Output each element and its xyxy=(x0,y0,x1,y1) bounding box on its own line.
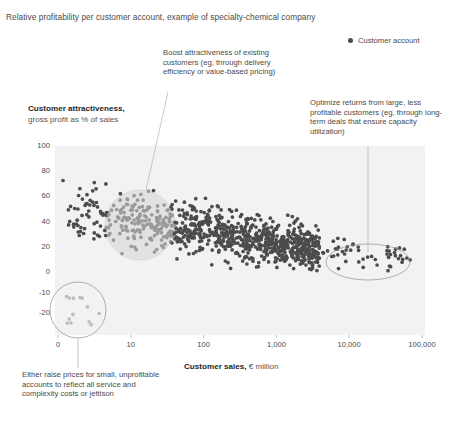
scatter-point xyxy=(244,247,248,251)
scatter-point xyxy=(170,207,174,211)
y-tick-0: 0 xyxy=(24,267,50,276)
scatter-point xyxy=(126,236,130,240)
scatter-point xyxy=(194,227,198,231)
scatter-point xyxy=(156,204,160,208)
scatter-point xyxy=(259,236,263,240)
scatter-point xyxy=(194,197,198,201)
scatter-point xyxy=(217,241,221,245)
scatter-point xyxy=(321,251,325,255)
scatter-point xyxy=(141,223,145,227)
scatter-point xyxy=(226,243,230,247)
scatter-point xyxy=(229,267,233,271)
scatter-point xyxy=(107,213,111,217)
x-axis-title: Customer sales, € million xyxy=(184,362,278,371)
scatter-point xyxy=(288,263,292,267)
scatter-point xyxy=(181,208,185,212)
scatter-point xyxy=(275,257,279,261)
scatter-point xyxy=(174,226,178,230)
y-tick-80: 80 xyxy=(24,166,50,175)
scatter-point xyxy=(193,217,197,221)
scatter-point xyxy=(284,240,288,244)
scatter-point xyxy=(174,230,178,234)
scatter-point xyxy=(280,235,284,239)
scatter-point xyxy=(187,252,191,256)
scatter-point xyxy=(191,208,195,212)
scatter-point xyxy=(370,255,374,259)
scatter-point xyxy=(316,228,320,232)
scatter-point xyxy=(249,244,253,248)
scatter-point xyxy=(361,265,365,269)
scatter-point xyxy=(296,217,300,221)
scatter-point xyxy=(155,218,159,222)
scatter-point xyxy=(152,189,156,193)
scatter-point xyxy=(298,239,302,243)
y-tick-100: 100 xyxy=(24,141,50,150)
x-tick-10000: 10,000 xyxy=(327,340,371,349)
scatter-point xyxy=(246,243,250,247)
scatter-point xyxy=(230,210,234,214)
scatter-point xyxy=(175,236,179,240)
y-tick-neg10: -10 xyxy=(24,288,50,297)
scatter-point xyxy=(191,223,195,227)
scatter-point xyxy=(304,239,308,243)
scatter-point xyxy=(178,247,182,251)
scatter-point xyxy=(361,257,365,261)
scatter-point xyxy=(265,253,269,257)
scatter-point xyxy=(129,244,133,248)
scatter-point xyxy=(120,252,124,256)
scatter-point xyxy=(344,248,348,252)
scatter-point xyxy=(153,226,157,230)
scatter-point xyxy=(180,231,184,235)
scatter-point xyxy=(230,248,234,252)
scatter-point xyxy=(163,242,167,246)
scatter-point xyxy=(174,199,178,203)
scatter-point xyxy=(122,205,126,209)
scatter-point xyxy=(264,237,268,241)
scatter-point-unprofitable xyxy=(67,296,71,300)
scatter-point xyxy=(120,219,124,223)
scatter-point xyxy=(121,228,125,232)
scatter-point xyxy=(147,189,151,193)
scatter-point xyxy=(95,201,99,205)
scatter-point xyxy=(233,241,237,245)
scatter-point xyxy=(183,225,187,229)
scatter-point-unprofitable xyxy=(89,323,93,327)
scatter-point xyxy=(277,240,281,244)
scatter-point xyxy=(92,231,96,235)
scatter-point xyxy=(235,225,239,229)
scatter-point xyxy=(241,238,245,242)
scatter-point xyxy=(112,238,116,242)
scatter-point xyxy=(115,208,119,212)
scatter-point xyxy=(294,252,298,256)
scatter-point xyxy=(292,267,296,271)
scatter-point xyxy=(341,250,345,254)
scatter-point xyxy=(243,235,247,239)
scatter-point xyxy=(315,269,319,273)
scatter-point xyxy=(217,214,221,218)
scatter-point xyxy=(290,254,294,258)
scatter-point xyxy=(267,260,271,264)
scatter-point-unprofitable xyxy=(65,321,69,325)
scatter-point xyxy=(387,255,391,259)
scatter-point xyxy=(277,223,281,227)
scatter-point xyxy=(139,192,143,196)
scatter-point xyxy=(77,234,81,238)
scatter-point xyxy=(349,248,353,252)
scatter-point xyxy=(356,245,360,249)
scatter-point xyxy=(245,221,249,225)
scatter-point xyxy=(141,198,145,202)
legend-label-customer-account: Customer account xyxy=(358,36,420,45)
scatter-point xyxy=(120,224,124,228)
scatter-point xyxy=(267,246,271,250)
scatter-point xyxy=(170,203,174,207)
scatter-point xyxy=(303,247,307,251)
scatter-point xyxy=(174,221,178,225)
scatter-point xyxy=(164,215,168,219)
scatter-point xyxy=(394,254,398,258)
scatter-point xyxy=(206,242,210,246)
scatter-point xyxy=(132,237,136,241)
y-axis-title: Customer attractiveness, gross profit as… xyxy=(28,104,125,125)
scatter-point xyxy=(104,182,108,186)
scatter-point xyxy=(179,238,183,242)
scatter-point xyxy=(130,221,134,225)
